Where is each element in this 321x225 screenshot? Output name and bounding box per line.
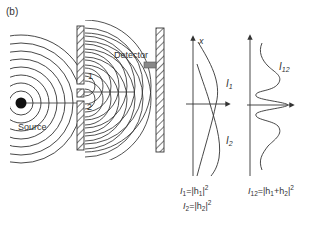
slit1-wavefronts [85, 20, 151, 152]
source-label: Source [18, 122, 47, 132]
source-wavefronts [0, 35, 89, 163]
graph2 [247, 37, 292, 176]
screen-wall [156, 28, 164, 152]
panel-label: (b) [6, 6, 18, 17]
curve-i2-label: I2 [226, 135, 233, 147]
curve-i12-label: I12 [279, 61, 290, 73]
graph1-axis-label: x [198, 36, 204, 46]
slit-wall [77, 26, 84, 150]
slit2-label: 2 [87, 102, 92, 112]
detector [144, 62, 156, 68]
curve-i1-label: I1 [226, 78, 233, 90]
detector-label: Detector [114, 50, 148, 60]
formula-i1: I1=|h1|2 [180, 184, 209, 197]
formula-i2: I2=|h2|2 [183, 199, 212, 212]
graph1 [186, 38, 228, 176]
formula-i12: I12=|h1+h2|2 [248, 184, 294, 197]
double-slit-figure: (b) [0, 0, 321, 225]
slit1-label: 1 [88, 71, 93, 81]
source-dot [16, 98, 27, 109]
